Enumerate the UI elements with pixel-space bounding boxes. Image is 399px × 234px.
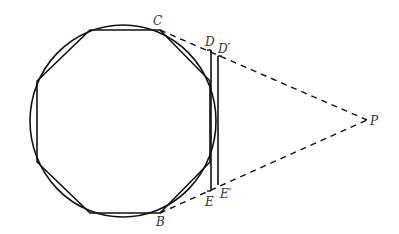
inscribed-octagon (37, 30, 210, 213)
label-B: B (155, 215, 165, 229)
label-E: E (204, 195, 214, 209)
dashed-tangent-B-P (160, 120, 367, 213)
circle (30, 25, 216, 217)
label-D-prime: D′ (217, 42, 231, 56)
label-D: D (204, 35, 215, 49)
label-P: P (369, 114, 379, 128)
label-C: C (153, 14, 162, 28)
label-E-prime: E′ (219, 187, 232, 201)
diagram-canvas: C D D′ P E E′ B (0, 0, 399, 234)
dashed-tangent-C-P (160, 30, 367, 120)
